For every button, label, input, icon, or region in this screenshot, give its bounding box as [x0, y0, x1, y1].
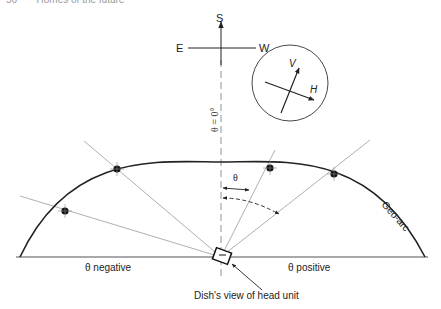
satellites — [58, 161, 341, 218]
theta-dashed-arc-arrow-icon — [223, 198, 279, 214]
geo-arc — [20, 162, 425, 257]
theta-arrow-icon — [223, 188, 249, 190]
dish-head-unit-icon — [212, 248, 231, 265]
sightline-4 — [221, 140, 370, 257]
sight-lines — [20, 140, 370, 257]
geo-arc-label: Geo-arc — [380, 199, 412, 233]
dish-caption: Dish's view of head unit — [194, 290, 299, 301]
theta-label: θ — [233, 172, 238, 183]
satellite-icon — [110, 162, 124, 176]
compass-south-label: S — [216, 12, 223, 24]
sightline-2 — [84, 141, 221, 257]
theta-positive-label: θ positive — [288, 262, 331, 273]
geo-arc-diagram: S E W V H θ = 0° θ Geo-arc θ negative θ … — [0, 0, 441, 309]
theta-negative-label: θ negative — [85, 262, 132, 273]
compass-east-label: E — [176, 42, 183, 54]
compass: S E W — [176, 12, 270, 65]
sightline-3 — [221, 150, 275, 257]
dish-pointer-arrow-icon — [232, 264, 262, 290]
zero-angle-label: θ = 0° — [209, 108, 220, 132]
satellite-icon — [263, 161, 277, 175]
satellite-icon — [327, 167, 341, 181]
horizontal-label: H — [310, 84, 318, 95]
sightline-1 — [20, 196, 221, 257]
polarisation-inset: V H — [252, 45, 328, 121]
satellite-icon — [58, 204, 72, 218]
